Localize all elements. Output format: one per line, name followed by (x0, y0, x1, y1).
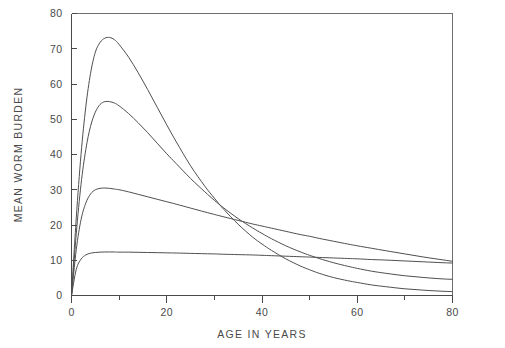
y-tick-label: 10 (50, 254, 62, 266)
x-tick-label: 60 (351, 306, 363, 318)
x-tick-label: 80 (446, 306, 458, 318)
plot-frame (72, 14, 453, 296)
y-tick-label: 80 (50, 7, 62, 19)
x-tick-label: 0 (68, 306, 74, 318)
y-tick-label: 20 (50, 219, 62, 231)
x-axis-title: AGE IN YEARS (217, 328, 307, 340)
chart-svg: 01020304050607080 020406080 AGE IN YEARS… (0, 0, 505, 348)
y-axis-title: MEAN WORM BURDEN (12, 87, 24, 223)
x-tick-label: 40 (256, 306, 268, 318)
y-tick-label: 50 (50, 113, 62, 125)
y-tick-label: 40 (50, 148, 62, 160)
chart-figure: 01020304050607080 020406080 AGE IN YEARS… (0, 0, 505, 348)
y-tick-label: 0 (56, 289, 62, 301)
curve-curve-1 (72, 37, 453, 295)
y-tick-label: 70 (50, 43, 62, 55)
x-tick-label: 20 (161, 306, 173, 318)
y-tick-label: 60 (50, 78, 62, 90)
y-axis-tick-labels: 01020304050607080 (50, 7, 62, 301)
y-tick-label: 30 (50, 184, 62, 196)
curve-curve-4 (72, 252, 453, 296)
curve-curve-2 (72, 101, 453, 295)
x-axis-tick-labels: 020406080 (68, 306, 458, 318)
x-axis-ticks (72, 296, 453, 303)
curve-curve-3 (72, 188, 453, 296)
chart-curves (72, 37, 453, 295)
